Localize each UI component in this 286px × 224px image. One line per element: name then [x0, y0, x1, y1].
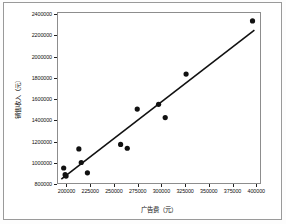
y-axis-tick-label: 1400000 — [32, 117, 52, 123]
scatter-point — [183, 71, 188, 76]
y-axis-tick-label: 2000000 — [32, 54, 52, 60]
scatter-point — [85, 170, 90, 175]
y-axis-tick-label: 1800000 — [32, 75, 52, 81]
x-axis-tick-label: 200000 — [58, 188, 75, 194]
y-axis-title-holder: 销售收入（元） — [10, 12, 22, 184]
x-axis-title: 广告费（元） — [57, 205, 261, 214]
y-axis-tick-label: 2400000 — [32, 11, 52, 17]
y-axis-title: 销售收入（元） — [13, 38, 22, 158]
x-axis-tick-label: 250000 — [105, 188, 122, 194]
y-axis-tick-label: 800000 — [35, 181, 52, 187]
scatter-point — [163, 115, 168, 120]
scatter-point — [118, 142, 123, 147]
scatter-point — [156, 102, 161, 107]
y-axis-tick-label: 2200000 — [32, 32, 52, 38]
y-axis-tick-label: 1600000 — [32, 96, 52, 102]
x-axis-tick-label: 325000 — [176, 188, 193, 194]
scatter-point — [63, 173, 68, 178]
scatter-point — [61, 165, 66, 170]
x-axis-tick-label: 400000 — [248, 188, 265, 194]
plot-svg — [58, 13, 262, 185]
y-axis-tick-mark — [54, 184, 57, 185]
x-axis-tick-label: 275000 — [129, 188, 146, 194]
y-axis-tick-label: 1200000 — [32, 139, 52, 145]
x-axis-tick-label: 350000 — [200, 188, 217, 194]
scatter-point — [76, 146, 81, 151]
x-axis-tick-label: 225000 — [82, 188, 99, 194]
scatter-point — [135, 106, 140, 111]
scatter-point — [79, 160, 84, 165]
scatter-chart-figure: 销售收入（元） 80000010000001200000140000016000… — [0, 0, 286, 224]
plot-area — [57, 12, 261, 184]
scatter-point — [250, 18, 255, 23]
scatter-points — [61, 18, 255, 178]
y-axis-tick-label: 1000000 — [32, 160, 52, 166]
x-axis-tick-label: 300000 — [153, 188, 170, 194]
scatter-point — [125, 146, 130, 151]
x-axis-tick-label: 375000 — [224, 188, 241, 194]
